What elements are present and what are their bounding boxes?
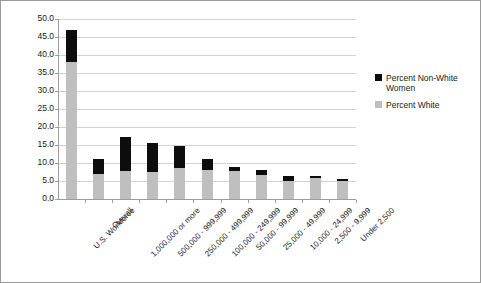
x-axis-tick-mark — [302, 200, 303, 203]
bar-segment-percent-white — [229, 171, 240, 199]
legend-label-nonwhite: Percent Non-White Women — [386, 73, 474, 93]
x-axis-tick-label: 10,000 - 24,999 — [309, 206, 355, 252]
chart-container: 50.045.040.035.030.025.020.015.010.05.00… — [0, 0, 481, 283]
legend-swatch-icon-white — [375, 101, 382, 108]
bar-stack — [256, 19, 267, 199]
y-axis-tick-label: 15.0 — [37, 140, 54, 149]
x-axis-tick-mark — [275, 200, 276, 203]
x-axis-tick-mark — [248, 200, 249, 203]
y-axis-tick-mark — [55, 73, 58, 74]
y-axis-tick-mark — [55, 163, 58, 164]
y-axis-tick-mark — [55, 127, 58, 128]
y-axis-tick-mark — [55, 199, 58, 200]
y-axis-tick-mark — [55, 109, 58, 110]
x-axis-tick-mark — [329, 200, 330, 203]
y-axis-tick-mark — [55, 145, 58, 146]
bar-segment-percent-non-white-women — [202, 159, 213, 169]
y-axis-tick-mark — [55, 181, 58, 182]
y-axis-line — [58, 19, 59, 199]
x-axis-tick-label: 25,000 - 49,999 — [282, 206, 328, 252]
x-axis-tick-label: 2,500 - 9,999 — [333, 206, 373, 246]
legend-item-white: Percent White — [375, 100, 479, 110]
bar-segment-percent-non-white-women — [256, 170, 267, 175]
y-axis-tick-mark — [55, 19, 58, 20]
bar-stack — [147, 19, 158, 199]
x-axis-tick-label: Under 2,500 — [359, 206, 396, 243]
x-axis-line — [58, 199, 356, 200]
bar-stack — [310, 19, 321, 199]
bar-segment-percent-non-white-women — [229, 167, 240, 171]
bar-segment-percent-white — [256, 175, 267, 199]
x-axis-tick-label: Overall — [110, 206, 134, 230]
y-axis-tick-label: 25.0 — [37, 104, 54, 113]
bar-segment-percent-white — [66, 62, 77, 199]
bar-segment-percent-non-white-women — [310, 176, 321, 178]
bar-stack — [283, 19, 294, 199]
x-axis-tick-mark — [166, 200, 167, 203]
y-axis-tick-mark — [55, 91, 58, 92]
x-axis-tick-label: 500,000 - 999,999 — [176, 206, 228, 258]
bar-segment-percent-white — [202, 170, 213, 199]
bar-stack — [174, 19, 185, 199]
x-axis-tick-mark — [356, 200, 357, 203]
y-axis-tick-label: 20.0 — [37, 122, 54, 131]
x-axis-tick-label: 250,000 - 499,999 — [203, 206, 255, 258]
bar-segment-percent-white — [147, 172, 158, 199]
y-axis-tick-label: 50.0 — [37, 14, 54, 23]
y-axis-labels: 50.045.040.035.030.025.020.015.010.05.00… — [1, 1, 54, 283]
bar-segment-percent-non-white-women — [93, 159, 104, 174]
y-axis-tick-mark — [55, 37, 58, 38]
bar-stack — [66, 19, 77, 199]
plot-area — [58, 19, 356, 199]
legend-item-nonwhite: Percent Non-White Women — [375, 73, 479, 93]
bar-segment-percent-white — [120, 171, 131, 199]
bar-stack — [229, 19, 240, 199]
bar-segment-percent-non-white-women — [283, 176, 294, 182]
bar-segment-percent-white — [93, 174, 104, 199]
y-axis-tick-label: 40.0 — [37, 50, 54, 59]
bar-segment-percent-non-white-women — [66, 30, 77, 62]
bar-stack — [337, 19, 348, 199]
x-axis-tick-mark — [85, 200, 86, 203]
y-axis-tick-mark — [55, 55, 58, 56]
bar-segment-percent-white — [337, 181, 348, 199]
bar-segment-percent-non-white-women — [147, 143, 158, 172]
y-axis-tick-label: 45.0 — [37, 32, 54, 41]
bar-segment-percent-non-white-women — [120, 137, 131, 170]
y-axis-tick-label: 10.0 — [37, 158, 54, 167]
y-axis-tick-label: 30.0 — [37, 86, 54, 95]
bar-segment-percent-white — [283, 181, 294, 199]
x-axis-tick-label: U.S. Workforce — [91, 206, 136, 251]
x-axis-tick-label: 100,000 - 249,999 — [230, 206, 282, 258]
x-axis-tick-label: 1,000,000 or more — [149, 206, 202, 259]
x-axis-tick-mark — [112, 200, 113, 203]
legend-swatch-icon-nonwhite — [375, 74, 382, 81]
x-axis-tick-mark — [193, 200, 194, 203]
x-axis-tick-label: 50,000 - 99,999 — [254, 206, 300, 252]
x-axis-tick-mark — [221, 200, 222, 203]
chart-legend: Percent Non-White Women Percent White — [375, 73, 479, 117]
bar-segment-percent-non-white-women — [174, 146, 185, 168]
bar-segment-percent-white — [174, 168, 185, 199]
y-axis-tick-label: 35.0 — [37, 68, 54, 77]
y-axis-tick-label: 5.0 — [42, 176, 54, 185]
bar-stack — [120, 19, 131, 199]
bar-stack — [202, 19, 213, 199]
x-axis-tick-mark — [139, 200, 140, 203]
y-axis-tick-label: 0.0 — [42, 194, 54, 203]
bar-stack — [93, 19, 104, 199]
legend-label-white: Percent White — [386, 100, 474, 110]
bar-segment-percent-non-white-women — [337, 179, 348, 181]
bar-segment-percent-white — [310, 178, 321, 199]
